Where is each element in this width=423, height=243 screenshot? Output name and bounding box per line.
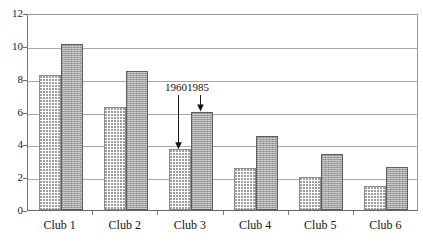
bar-club-4-1985 [256,136,278,210]
bar-club-3-1960 [169,149,191,210]
gridline-10 [28,48,417,49]
y-tick-label-0: 0 [1,205,23,216]
y-tick-label-4: 4 [1,139,23,150]
annotation-arrow-1960 [174,95,183,149]
x-tick-mark-3 [223,211,224,215]
gridline-4 [28,146,417,147]
plot-area [27,14,418,211]
x-tick-mark-5 [353,211,354,215]
annotation-arrow-1985 [196,95,205,112]
bar-chart: 024681012 Club 1Club 2Club 3Club 4Club 5… [0,0,423,243]
bar-club-1-1960 [39,75,61,210]
y-tick-mark-0 [23,211,27,212]
gridline-6 [28,114,417,115]
gridline-2 [28,179,417,180]
annotation-label-1960: 1960 [165,82,187,93]
x-tick-mark-2 [157,211,158,215]
bar-club-6-1960 [364,186,386,210]
bar-club-3-1985 [191,112,213,211]
x-tick-mark-4 [288,211,289,215]
y-tick-label-12: 12 [1,8,23,19]
bar-club-2-1985 [126,71,148,211]
y-tick-label-10: 10 [1,41,23,52]
y-tick-label-8: 8 [1,74,23,85]
bar-club-6-1985 [386,167,408,210]
annotation-label-1985: 1985 [187,82,209,93]
gridline-8 [28,81,417,82]
bar-club-5-1985 [321,154,343,210]
bar-club-1-1985 [61,44,83,210]
y-tick-label-6: 6 [1,107,23,118]
bar-club-4-1960 [234,168,256,210]
bar-club-5-1960 [299,177,321,210]
bar-club-2-1960 [104,107,126,210]
x-tick-mark-1 [92,211,93,215]
x-tick-label-club-6: Club 6 [345,219,423,231]
y-tick-label-2: 2 [1,172,23,183]
